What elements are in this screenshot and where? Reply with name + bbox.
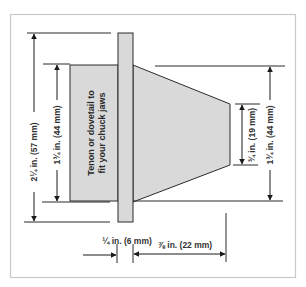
plate-thickness-label: ¼ in. (6 mm) [102, 236, 152, 246]
jam-chuck-diagram: 2¼ in. (57 mm) 1¾ in. (44 mm) Tenon or d… [0, 0, 306, 287]
overall-height-label: 2¼ in. (57 mm) [29, 122, 39, 181]
tenon-note-line1: Tenon or dovetail to [86, 90, 96, 176]
center-plate [118, 33, 133, 222]
taper-small-end-label: ¾ in. (19 mm) [247, 108, 257, 162]
tenon-note-line2: fit your chuck jaws [97, 92, 107, 173]
taper-length-label: ⅞ in. (22 mm) [158, 240, 212, 250]
tenon-height-label: 1¾ in. (44 mm) [52, 105, 62, 164]
taper-large-end-label: 1¾ in. (44 mm) [265, 105, 275, 164]
